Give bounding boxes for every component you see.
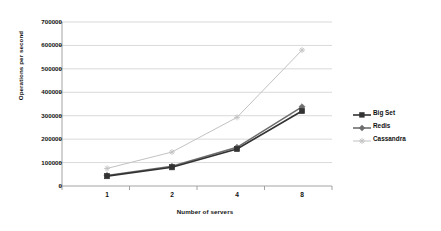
- data-point-marker: [234, 146, 239, 151]
- legend-label: Big Set: [372, 109, 395, 116]
- series-line-big-set: [107, 111, 302, 176]
- data-point-marker: [104, 174, 109, 179]
- legend-item-cassandra[interactable]: Cassandra: [352, 132, 440, 145]
- legend-label: Redis: [372, 122, 390, 129]
- x-axis-tick-label: 2: [160, 191, 184, 198]
- series-line-redis: [107, 107, 302, 176]
- y-axis-tick-label: 300000: [18, 112, 62, 119]
- x-axis-tick-label: 1: [95, 191, 119, 198]
- legend-marker-icon: [352, 107, 372, 119]
- legend-item-redis[interactable]: Redis: [352, 119, 440, 132]
- data-point-marker: [234, 114, 240, 120]
- data-point-marker: [104, 165, 110, 171]
- y-axis-tick-label: 500000: [18, 65, 62, 72]
- legend-marker-icon: [352, 120, 372, 132]
- chart-legend: Big SetRedisCassandra: [352, 106, 440, 145]
- y-axis-tick-label: 600000: [18, 42, 62, 49]
- data-point-marker: [299, 108, 304, 113]
- x-axis-tick-label: 8: [290, 191, 314, 198]
- line-chart: 0100000200000300000400000500000600000700…: [0, 0, 441, 231]
- legend-item-big-set[interactable]: Big Set: [352, 106, 440, 119]
- data-point-marker: [169, 165, 174, 170]
- x-axis-tick-label: 4: [225, 191, 249, 198]
- y-axis-title: Operations per second: [17, 16, 24, 116]
- y-axis-tick-label: 400000: [18, 89, 62, 96]
- data-point-marker: [169, 149, 175, 155]
- series-line-cassandra: [107, 50, 302, 168]
- y-axis-tick-label: 200000: [18, 136, 62, 143]
- y-axis-tick-label: 100000: [18, 159, 62, 166]
- y-axis-tick-label: 0: [18, 182, 62, 189]
- data-point-marker: [299, 47, 305, 53]
- legend-marker-icon: [352, 133, 372, 145]
- y-axis-tick-label: 700000: [18, 18, 62, 25]
- x-axis-title: Number of servers: [110, 208, 300, 215]
- legend-label: Cassandra: [372, 135, 406, 142]
